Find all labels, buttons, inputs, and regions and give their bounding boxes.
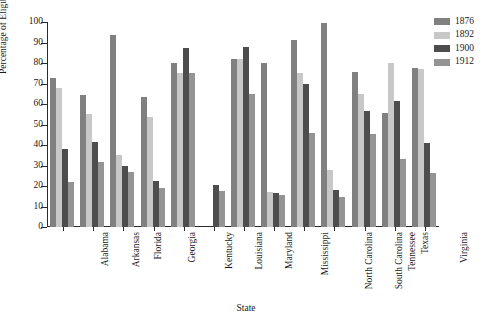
bar-florida-1912 <box>128 172 134 227</box>
x-axis-label-kentucky: Kentucky <box>224 232 234 269</box>
x-axis-label-florida: Florida <box>154 232 164 259</box>
x-axis-label-georgia: Georgia <box>187 232 197 262</box>
legend-item-1876: 1876 <box>434 16 474 27</box>
y-axis-tick-label: 50 <box>3 120 43 130</box>
bar-south-carolina-1912 <box>339 197 345 227</box>
y-axis-tick-label: 40 <box>3 140 43 150</box>
bar-arkansas-1912 <box>98 162 104 227</box>
x-axis-title: State <box>0 303 492 313</box>
x-axis-label-alabama: Alabama <box>100 232 110 266</box>
bar-georgia-1912 <box>159 188 165 227</box>
y-axis-tick-label: 30 <box>3 161 43 171</box>
x-axis-label-louisiana: Louisiana <box>254 232 264 269</box>
bar-alabama-1912 <box>68 182 74 227</box>
legend-label-1876: 1876 <box>455 17 474 27</box>
x-axis-label-arkansas: Arkansas <box>132 232 142 267</box>
legend-label-1892: 1892 <box>455 30 474 40</box>
bar-maryland-1912 <box>249 94 255 227</box>
bar-louisiana-1912 <box>219 191 225 227</box>
legend-swatch-1876 <box>434 18 450 25</box>
legend-swatch-1892 <box>434 32 450 39</box>
legend-item-1900: 1900 <box>434 43 474 54</box>
x-axis-label-texas: Texas <box>420 232 430 254</box>
bar-north-carolina-1912 <box>309 133 315 227</box>
legend: 1876189219001912 <box>434 16 474 70</box>
bar-virginia-1912 <box>430 173 436 227</box>
plot-area <box>47 22 439 227</box>
x-axis-label-mississippi: Mississippi <box>320 232 330 275</box>
legend-item-1892: 1892 <box>434 30 474 41</box>
bar-chart: Percentage of Eligible Voters State 1876… <box>0 0 492 325</box>
x-axis-label-tennessee: Tennessee <box>407 232 417 271</box>
y-axis-tick-label: 10 <box>3 202 43 212</box>
legend-item-1912: 1912 <box>434 57 474 68</box>
y-axis-tick-label: 90 <box>3 38 43 48</box>
bar-texas-1912 <box>400 159 406 227</box>
x-axis-label-south-carolina: South Carolina <box>395 232 405 289</box>
y-axis-tick-label: 80 <box>3 58 43 68</box>
y-axis-tick-label: 60 <box>3 99 43 109</box>
y-axis-tick-label: 0 <box>3 222 43 232</box>
legend-swatch-1912 <box>434 59 450 66</box>
y-axis-tick-label: 70 <box>3 79 43 89</box>
legend-swatch-1900 <box>434 45 450 52</box>
bar-kentucky-1912 <box>189 73 195 227</box>
legend-label-1912: 1912 <box>455 57 474 67</box>
bar-tennessee-1912 <box>370 134 376 227</box>
y-axis-tick-label: 20 <box>3 181 43 191</box>
x-axis-label-virginia: Virginia <box>459 232 469 263</box>
bar-mississippi-1912 <box>279 195 285 227</box>
x-axis-label-maryland: Maryland <box>284 232 294 269</box>
legend-label-1900: 1900 <box>455 44 474 54</box>
y-axis-tick-label: 100 <box>3 17 43 27</box>
x-axis-label-north-carolina: North Carolina <box>365 232 375 289</box>
